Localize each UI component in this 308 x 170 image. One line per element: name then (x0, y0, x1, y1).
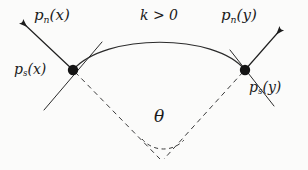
label-normal-x-arg: (x) (50, 6, 70, 24)
normal-arrow-y (245, 29, 281, 70)
label-normal-y: pn(y) (221, 8, 257, 24)
dashed-radius-y (164, 72, 243, 159)
diagram-canvas: pn(x) ps(x) pn(y) ps(y) k > 0 θ (0, 0, 308, 170)
label-normal-x: pn(x) (34, 8, 70, 24)
label-surface-y-arg: (y) (262, 79, 281, 95)
label-surface-x-arg: (x) (27, 61, 46, 77)
node-surface-x (68, 65, 78, 75)
tangent-line-y (230, 50, 274, 106)
label-surface-y-base: p (249, 79, 258, 95)
node-surface-y (240, 65, 250, 75)
label-curvature-condition: k > 0 (140, 8, 178, 22)
angle-arc (142, 139, 184, 149)
label-angle-theta: θ (154, 108, 164, 125)
label-normal-y-arg: (y) (237, 6, 257, 24)
label-surface-y: ps(y) (249, 80, 281, 96)
label-normal-x-base: p (34, 6, 44, 24)
label-surface-x-base: p (14, 61, 23, 77)
tangent-line-x (44, 42, 102, 110)
label-normal-y-base: p (221, 6, 231, 24)
dashed-radius-x (75, 72, 160, 159)
label-surface-x: ps(x) (14, 62, 46, 78)
